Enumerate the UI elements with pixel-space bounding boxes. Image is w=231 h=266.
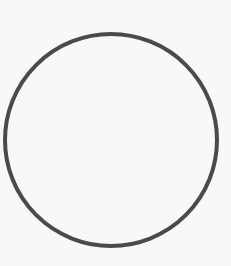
circle-figure bbox=[0, 0, 231, 266]
circle-outline bbox=[5, 34, 217, 246]
diagram-canvas bbox=[0, 0, 231, 266]
